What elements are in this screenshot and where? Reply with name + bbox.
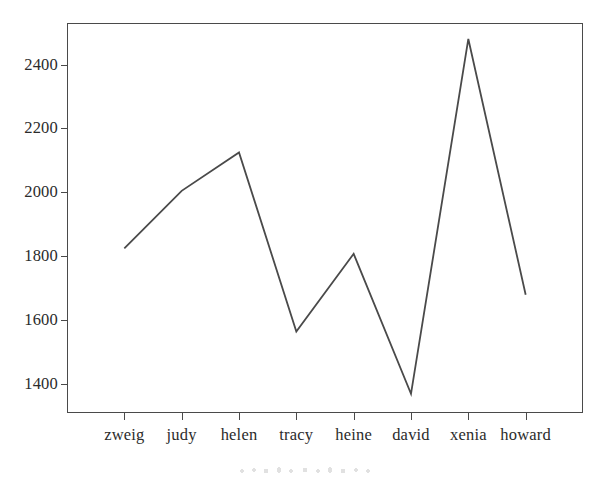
- y-tick-label: 2000: [24, 182, 58, 202]
- y-tick-label: 1400: [24, 374, 58, 394]
- y-tick-label: 2200: [24, 118, 58, 138]
- x-tick-label: tracy: [279, 425, 313, 445]
- footer-artifact: [236, 466, 386, 475]
- x-tick-label: david: [392, 425, 430, 445]
- x-tick-mark: [468, 413, 469, 420]
- data-series-layer: [67, 23, 583, 413]
- x-tick-label: xenia: [450, 425, 487, 445]
- x-tick-mark: [182, 413, 183, 420]
- x-tick-label: heine: [335, 425, 372, 445]
- x-tick-mark: [124, 413, 125, 420]
- x-tick-mark: [526, 413, 527, 420]
- series-line-path: [124, 39, 525, 394]
- x-tick-mark: [354, 413, 355, 420]
- x-tick-label: judy: [167, 425, 197, 445]
- line-chart: 140016001800200022002400 zweigjudyhelent…: [0, 0, 614, 481]
- x-tick-label: helen: [221, 425, 258, 445]
- y-axis: 140016001800200022002400: [0, 0, 58, 481]
- x-tick-mark: [296, 413, 297, 420]
- x-tick-mark: [239, 413, 240, 420]
- x-tick-mark: [411, 413, 412, 420]
- y-tick-label: 1600: [24, 310, 58, 330]
- x-tick-label: zweig: [104, 425, 144, 445]
- y-tick-label: 1800: [24, 246, 58, 266]
- y-tick-label: 2400: [24, 55, 58, 75]
- x-tick-label: howard: [500, 425, 551, 445]
